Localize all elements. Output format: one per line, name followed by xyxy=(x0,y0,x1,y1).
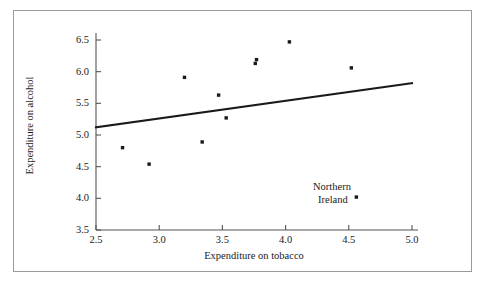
figure-container: Expenditure on alcohol Expenditure on to… xyxy=(0,0,486,290)
northern-ireland-label-line1: Northern xyxy=(313,180,351,193)
x-tick-label: 4.0 xyxy=(271,234,301,245)
data-point xyxy=(350,66,353,69)
y-tick-label: 5.5 xyxy=(59,97,89,108)
regression-line xyxy=(96,83,412,127)
data-point xyxy=(200,140,203,143)
y-axis-label: Expenditure on alcohol xyxy=(24,66,35,186)
x-tick-label: 3.5 xyxy=(207,234,237,245)
x-tick-label: 2.5 xyxy=(81,234,111,245)
x-tick-label: 3.0 xyxy=(144,234,174,245)
data-point xyxy=(147,162,150,165)
x-axis-label: Expenditure on tobacco xyxy=(96,250,412,261)
y-tick-label: 4.5 xyxy=(59,161,89,172)
y-tick-label: 6.0 xyxy=(59,66,89,77)
x-tick-label: 4.5 xyxy=(334,234,364,245)
data-point xyxy=(183,76,186,79)
y-tick-label: 4.0 xyxy=(59,192,89,203)
data-point xyxy=(355,195,358,198)
scatter-plot: Expenditure on alcohol Expenditure on to… xyxy=(0,0,486,290)
y-tick-label: 5.0 xyxy=(59,129,89,140)
data-point xyxy=(217,93,220,96)
data-point xyxy=(255,58,258,61)
y-tick-label: 6.5 xyxy=(59,34,89,45)
data-point xyxy=(121,146,124,149)
y-axis-ticks xyxy=(96,40,101,230)
x-axis-ticks xyxy=(96,225,412,230)
data-point xyxy=(224,116,227,119)
data-point xyxy=(288,40,291,43)
x-tick-label: 5.0 xyxy=(397,234,427,245)
northern-ireland-label-line2: Ireland xyxy=(318,193,348,206)
data-point xyxy=(254,62,257,65)
